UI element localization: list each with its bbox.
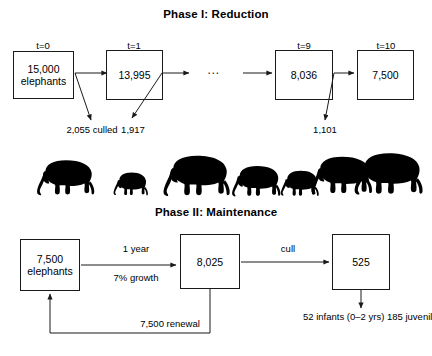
phase2-start-unit: elephants xyxy=(27,265,73,277)
ellipsis-separator: … xyxy=(192,62,236,77)
elephant-silhouette-1 xyxy=(34,157,98,197)
phase2-title: Phase II: Maintenance xyxy=(0,206,432,218)
renewal-label: 7,500 renewal xyxy=(80,318,260,329)
time-label-t0: t=0 xyxy=(13,40,73,51)
population-box-t0: 15,000 elephants xyxy=(13,51,74,99)
culled-value-t0: 2,055 xyxy=(66,124,90,135)
population-value-t9: 8,036 xyxy=(291,69,317,81)
phase2-start-box: 7,500 elephants xyxy=(20,239,80,291)
population-box-t1: 13,995 xyxy=(106,50,163,100)
elephant-silhouette-2 xyxy=(111,170,149,197)
population-value-t1: 13,995 xyxy=(118,69,150,81)
phase2-grown-value: 8,025 xyxy=(197,256,223,268)
growth-label-rate: 7% growth xyxy=(92,272,180,283)
growth-label-duration: 1 year xyxy=(96,243,176,254)
population-value-t10: 7,500 xyxy=(372,69,398,81)
breakdown-juveniles: 185 juveniles (3–17 yrs) xyxy=(387,311,432,322)
culled-value-t1: 1,917 xyxy=(121,124,145,135)
arrow-t0-culled xyxy=(75,73,91,120)
phase2-grown-box: 8,025 xyxy=(180,234,240,289)
phase2-cull-box: 525 xyxy=(332,234,390,290)
population-unit-t0: elephants xyxy=(21,75,67,87)
culled-label-t9: 1,101 xyxy=(293,124,357,136)
elephant-silhouette-4 xyxy=(229,162,283,198)
culled-label-t1: 1,917 xyxy=(100,124,166,136)
elephant-silhouette-3 xyxy=(160,152,234,198)
population-box-t9: 8,036 xyxy=(275,50,333,100)
phase2-start-value: 7,500 xyxy=(37,253,63,265)
figure-canvas: Phase I: Reduction t=0 15,000 elephants … xyxy=(0,0,432,356)
phase2-cull-value: 525 xyxy=(352,256,370,268)
breakdown-infants: 52 infants (0–2 yrs) xyxy=(303,311,384,322)
population-box-t10: 7,500 xyxy=(357,50,414,100)
elephant-silhouette-7 xyxy=(351,148,427,198)
cull-edge-label: cull xyxy=(258,243,318,254)
cull-breakdown: 52 infants (0–2 yrs) 185 juveniles (3–17… xyxy=(303,311,432,323)
phase1-title: Phase I: Reduction xyxy=(0,8,432,20)
population-value-t0: 15,000 xyxy=(27,63,59,75)
culled-value-t9: 1,101 xyxy=(313,124,337,135)
